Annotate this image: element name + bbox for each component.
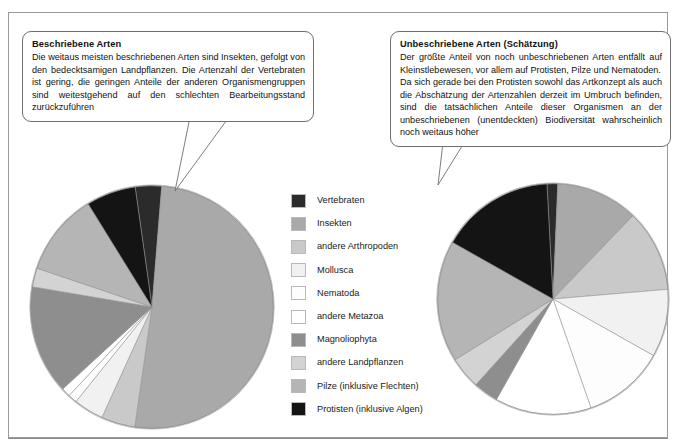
legend-label: andere Landpflanzen <box>317 357 403 368</box>
legend-item: Vertebraten <box>291 189 441 212</box>
legend-label: Vertebraten <box>317 195 365 206</box>
legend-swatch <box>291 310 306 324</box>
legend-label: Insekten <box>317 218 352 229</box>
callout-left-body: Die weitaus meisten beschriebenen Arten … <box>32 51 305 113</box>
legend-item: Pilze (inklusive Flechten) <box>291 375 441 398</box>
legend-label: andere Metazoa <box>317 311 383 322</box>
legend-swatch <box>291 402 306 416</box>
legend-swatch <box>291 194 306 208</box>
legend-swatch <box>291 356 306 370</box>
legend-item: Nematoda <box>291 282 441 305</box>
callout-left-tail <box>157 113 257 198</box>
legend-label: Magnoliophyta <box>317 334 377 345</box>
callout-beschriebene-arten: Beschriebene Arten Die weitaus meisten b… <box>22 31 314 122</box>
legend-swatch <box>291 217 306 231</box>
callout-unbeschriebene-arten: Unbeschriebene Arten (Schätzung) Der grö… <box>390 31 671 147</box>
legend-label: Mollusca <box>317 265 353 276</box>
pie-chart-beschriebene-arten <box>30 185 274 429</box>
figure-frame: Beschriebene Arten Die weitaus meisten b… <box>8 12 668 438</box>
callout-right-body: Der größte Anteil von noch unbeschrieben… <box>400 51 662 138</box>
legend-item: Protisten (inklusive Algen) <box>291 398 441 421</box>
legend-item: andere Arthropoden <box>291 235 441 258</box>
callout-right-paragraph-1: Der größte Anteil von noch unbeschrieben… <box>400 51 662 76</box>
legend-item: Insekten <box>291 212 441 235</box>
pie-chart-unbeschriebene-arten <box>437 183 669 415</box>
legend-item: Magnoliophyta <box>291 328 441 351</box>
legend-item: Mollusca <box>291 259 441 282</box>
callout-left-title: Beschriebene Arten <box>32 38 305 50</box>
legend-item: andere Metazoa <box>291 305 441 328</box>
legend-swatch <box>291 333 306 347</box>
legend-swatch <box>291 240 306 254</box>
footer-divider <box>8 438 668 439</box>
footer-caption-cutoff <box>30 441 650 446</box>
callout-right-paragraph-2: Da sich gerade bei den Protisten sowohl … <box>400 76 662 138</box>
legend-label: andere Arthropoden <box>317 241 398 252</box>
legend-swatch <box>291 263 306 277</box>
legend-label: Protisten (inklusive Algen) <box>317 404 423 415</box>
callout-right-title: Unbeschriebene Arten (Schätzung) <box>400 38 662 50</box>
legend: VertebratenInsektenandere ArthropodenMol… <box>291 189 441 421</box>
legend-item: andere Landpflanzen <box>291 351 441 374</box>
legend-swatch <box>291 379 306 393</box>
legend-label: Pilze (inklusive Flechten) <box>317 381 419 392</box>
legend-swatch <box>291 286 306 300</box>
legend-label: Nematoda <box>317 288 359 299</box>
